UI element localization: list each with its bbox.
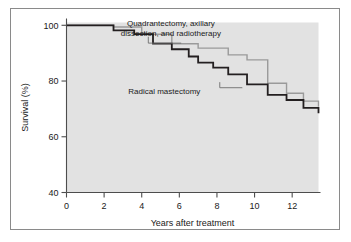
annot-quadrantectomy-label: dissection, and radiotherapy bbox=[121, 29, 221, 38]
x-axis-title: Years after treatment bbox=[151, 218, 235, 228]
survival-chart: Quadrantectomy, axillarydissection, and … bbox=[0, 0, 351, 242]
plot-background bbox=[67, 23, 319, 193]
x-tick-label: 4 bbox=[139, 201, 144, 211]
y-tick-label: 40 bbox=[48, 188, 58, 198]
y-axis-title: Survival (%) bbox=[20, 83, 30, 132]
x-tick-label: 2 bbox=[102, 201, 107, 211]
x-tick-label: 0 bbox=[64, 201, 69, 211]
y-tick-label: 80 bbox=[48, 76, 58, 86]
y-tick-label: 100 bbox=[43, 21, 58, 31]
y-tick-label: 60 bbox=[48, 132, 58, 142]
x-tick-label: 12 bbox=[287, 201, 297, 211]
plot-area bbox=[67, 23, 319, 193]
annot-radical-mastectomy-label: Radical mastectomy bbox=[128, 87, 200, 96]
figure-canvas: Quadrantectomy, axillarydissection, and … bbox=[0, 0, 351, 242]
x-tick-label: 8 bbox=[214, 201, 219, 211]
annot-quadrantectomy-label: Quadrantectomy, axillary bbox=[127, 19, 215, 28]
x-tick-label: 6 bbox=[177, 201, 182, 211]
x-tick-label: 10 bbox=[250, 201, 260, 211]
